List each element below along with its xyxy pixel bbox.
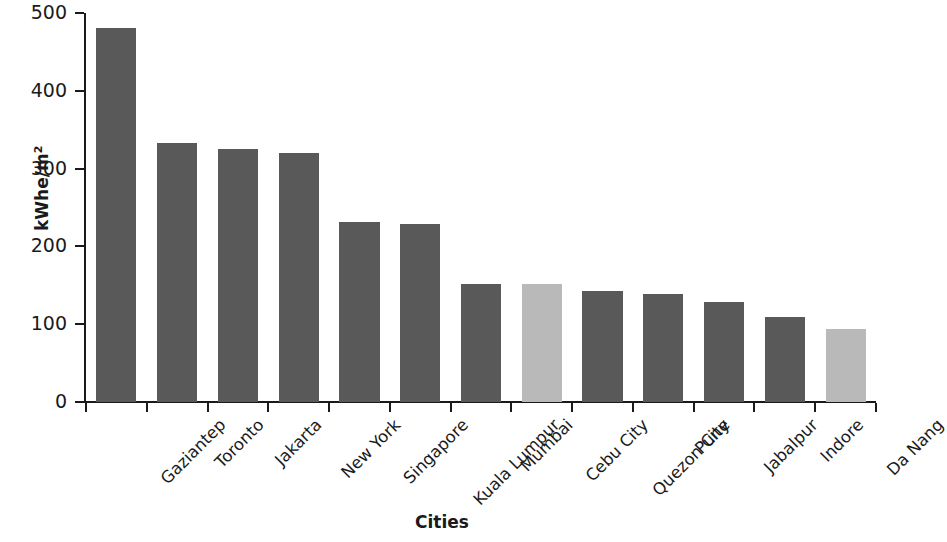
y-axis-title: kWhe/m2 bbox=[32, 128, 53, 248]
x-axis-label: Cebu City bbox=[582, 416, 651, 485]
x-axis-tick bbox=[267, 403, 269, 412]
bar bbox=[96, 28, 136, 402]
bar bbox=[704, 302, 744, 402]
y-axis-tick-label: 400 bbox=[5, 81, 67, 100]
x-axis-tick bbox=[85, 403, 87, 412]
y-axis-tick bbox=[75, 245, 84, 247]
x-axis-tick bbox=[146, 403, 148, 412]
bar bbox=[339, 222, 379, 402]
x-axis-tick bbox=[632, 403, 634, 412]
x-axis-tick bbox=[753, 403, 755, 412]
x-axis-tick bbox=[510, 403, 512, 412]
x-axis-tick bbox=[814, 403, 816, 412]
y-axis-title-exponent: 2 bbox=[32, 146, 45, 154]
bar bbox=[279, 153, 319, 402]
x-axis-tick bbox=[450, 403, 452, 412]
x-axis-label: Indore bbox=[817, 416, 866, 465]
y-axis-tick bbox=[75, 323, 84, 325]
x-axis-label: Jabalpur bbox=[761, 416, 821, 476]
bar bbox=[582, 291, 622, 402]
y-axis-tick-label: 200 bbox=[5, 236, 67, 255]
x-axis-tick bbox=[693, 403, 695, 412]
bar bbox=[765, 317, 805, 402]
x-axis-tick bbox=[389, 403, 391, 412]
bar bbox=[643, 294, 683, 402]
x-axis-tick bbox=[328, 403, 330, 412]
y-axis-tick bbox=[75, 401, 84, 403]
y-axis-tick bbox=[75, 12, 84, 14]
x-axis-label: Singapore bbox=[401, 416, 472, 487]
x-axis-label: Pune bbox=[692, 416, 733, 457]
x-axis-label: New York bbox=[338, 416, 403, 481]
y-axis-tick-label: 500 bbox=[5, 3, 67, 22]
x-axis-label: Da Nang bbox=[884, 416, 947, 479]
y-axis-tick-label: 0 bbox=[5, 392, 67, 411]
y-axis-tick bbox=[75, 168, 84, 170]
x-axis-title: Cities bbox=[0, 512, 884, 532]
x-axis-tick bbox=[875, 403, 877, 412]
bar bbox=[157, 143, 197, 402]
x-axis-label: Jakarta bbox=[272, 416, 325, 469]
bar bbox=[218, 149, 258, 402]
x-axis-tick bbox=[571, 403, 573, 412]
bar bbox=[461, 284, 501, 402]
bar bbox=[522, 284, 562, 402]
y-axis-tick-label: 100 bbox=[5, 314, 67, 333]
y-axis-tick-label: 300 bbox=[5, 159, 67, 178]
bar bbox=[826, 329, 866, 402]
plot-area bbox=[86, 13, 876, 402]
bar bbox=[400, 224, 440, 402]
x-axis-tick bbox=[207, 403, 209, 412]
y-axis-tick bbox=[75, 90, 84, 92]
